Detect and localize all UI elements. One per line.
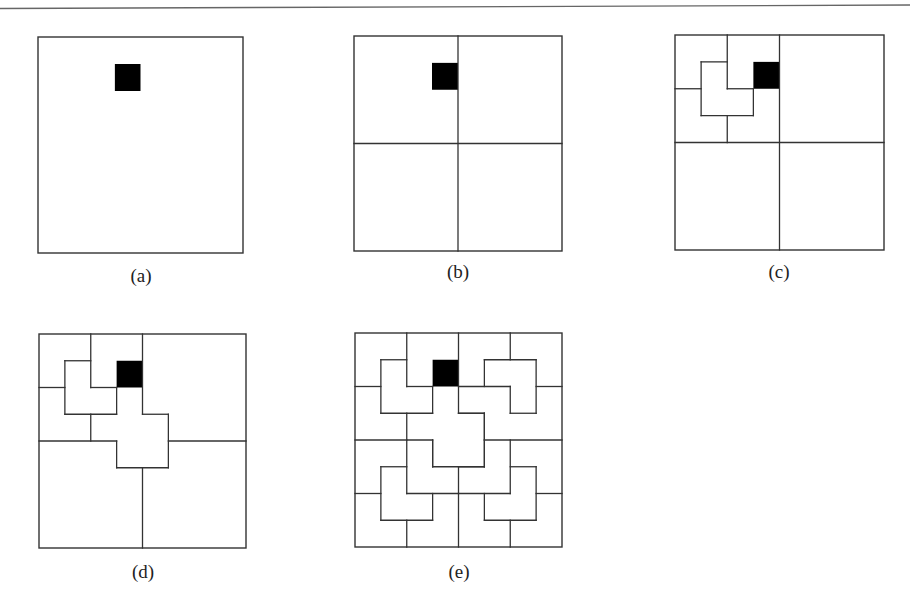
defect-square xyxy=(115,64,141,91)
defect-square xyxy=(433,360,459,387)
panel-a-empty-board xyxy=(38,37,243,253)
caption-c: (c) xyxy=(768,261,789,283)
defect-square xyxy=(753,62,779,89)
board-a xyxy=(38,37,243,253)
board-b xyxy=(354,36,562,251)
panel-e-full-tiling xyxy=(355,333,562,547)
caption-b: (b) xyxy=(447,261,469,283)
caption-e: (e) xyxy=(448,561,469,583)
board-c xyxy=(675,35,884,250)
panel-b-quadrants xyxy=(354,36,562,251)
top-rule-divider xyxy=(0,0,910,12)
caption-d: (d) xyxy=(132,561,154,583)
panel-d-center-tromino xyxy=(39,334,246,548)
board-d xyxy=(39,334,246,548)
board-e xyxy=(355,333,562,547)
defect-square xyxy=(117,361,143,388)
defect-square xyxy=(432,63,458,90)
caption-a: (a) xyxy=(130,265,151,287)
panel-c-first-quadrant-tiled xyxy=(675,35,884,250)
